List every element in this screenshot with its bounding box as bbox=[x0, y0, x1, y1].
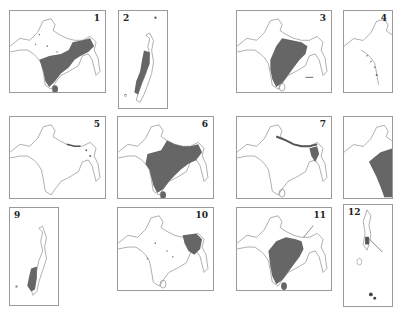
map-panel-11: 11 bbox=[236, 207, 332, 291]
map-panel-5: 5 bbox=[9, 116, 106, 199]
islands-map-icon bbox=[10, 208, 58, 305]
map-panel-9: 9 bbox=[9, 207, 59, 306]
map-panel-1: 1 bbox=[9, 10, 106, 93]
panel-label: 7 bbox=[320, 120, 326, 129]
map-panel-3: 3 bbox=[236, 10, 332, 93]
panel-label: 4 bbox=[381, 14, 387, 23]
map-panel-2: 2 bbox=[118, 10, 168, 109]
india-map-icon bbox=[237, 11, 331, 92]
panel-label: 10 bbox=[195, 211, 208, 220]
india-map-icon bbox=[118, 208, 213, 290]
panel-label: 2 bbox=[123, 14, 129, 23]
islands-map-icon bbox=[344, 205, 392, 306]
india-map-icon bbox=[10, 11, 105, 92]
india-map-icon bbox=[344, 11, 392, 92]
india-map-icon bbox=[344, 117, 392, 198]
panel-label: 5 bbox=[94, 120, 100, 129]
map-panel-6: 6 bbox=[117, 116, 214, 199]
india-map-icon bbox=[10, 117, 105, 198]
map-panel-12: 12 bbox=[343, 204, 393, 307]
india-map-icon bbox=[237, 117, 331, 198]
panel-label: 1 bbox=[94, 14, 100, 23]
india-map-icon bbox=[237, 208, 331, 290]
map-panel-8 bbox=[343, 116, 393, 199]
panel-label: 9 bbox=[14, 211, 20, 220]
islands-map-icon bbox=[119, 11, 167, 108]
india-map-icon bbox=[118, 117, 213, 198]
map-panel-10: 10 bbox=[117, 207, 214, 291]
panel-label: 6 bbox=[202, 120, 208, 129]
map-panel-7: 7 bbox=[236, 116, 332, 199]
panel-label: 12 bbox=[348, 208, 361, 217]
map-panel-4: 4 bbox=[343, 10, 393, 93]
panel-label: 3 bbox=[320, 14, 326, 23]
panel-label: 11 bbox=[313, 211, 326, 220]
